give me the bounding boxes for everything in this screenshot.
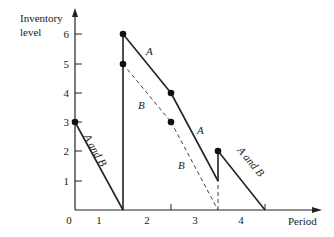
y-axis-title-line2: level [20, 26, 41, 38]
marker-dot [120, 31, 127, 38]
inventory-chart: 1 2 3 4 5 6 0 1 2 3 4 Inventory level Pe… [0, 0, 334, 237]
y-tick-label: 5 [64, 58, 70, 70]
marker-dot [168, 119, 175, 126]
y-tick-label: 4 [64, 87, 70, 99]
label-a-period3: A [196, 124, 204, 136]
label-a-period2: A [145, 45, 153, 57]
x-tick-label: 4 [238, 214, 244, 226]
label-a-and-b-period4: A and B [234, 143, 267, 179]
x-tick-label: 2 [144, 214, 150, 226]
marker-dot [120, 61, 127, 68]
y-axis-arrow-icon [72, 8, 78, 17]
y-ticks [75, 34, 82, 181]
label-a-and-b-period1: A and B [81, 131, 110, 169]
series-b [123, 64, 218, 210]
x-tick-label: 1 [96, 214, 102, 226]
marker-dot [168, 90, 175, 97]
y-tick-label: 1 [64, 175, 70, 187]
y-tick-label: 2 [64, 145, 70, 157]
marker-dot [72, 119, 79, 126]
y-tick-label: 3 [64, 116, 70, 128]
y-axis-title: Inventory [20, 12, 63, 24]
x-tick-label: 3 [192, 214, 198, 226]
label-b-period2: B [138, 99, 145, 111]
label-b-period3: B [178, 159, 185, 171]
marker-dot [215, 148, 222, 155]
x-axis-arrow-icon [312, 207, 322, 213]
x-axis-title: Period [288, 215, 317, 227]
x-tick-label: 0 [66, 214, 72, 226]
y-tick-label: 6 [64, 28, 70, 40]
